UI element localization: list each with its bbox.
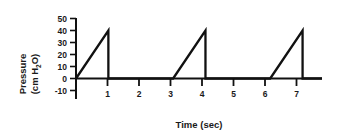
y-tick-label-minus10: -10 — [55, 86, 68, 96]
y-axis-label-line1: Pressure — [17, 54, 28, 95]
pressure-waveform-series — [76, 31, 322, 79]
y-tick-label-20: 20 — [58, 50, 68, 60]
x-tick-labels: 1 2 3 4 5 6 7 — [105, 89, 299, 99]
y-tick-label-50: 50 — [58, 14, 68, 24]
y-tick-labels: 50 40 30 20 10 0 -10 — [55, 14, 68, 96]
x-tick-label-5: 5 — [231, 89, 236, 99]
y-tick-label-0: 0 — [62, 74, 67, 84]
x-tick-label-4: 4 — [200, 89, 205, 99]
y-tick-label-10: 10 — [58, 62, 68, 72]
y-axis-label-line2: (cm H2O) — [29, 54, 42, 95]
y-axis-label-unit-prefix: (cm H — [29, 68, 40, 95]
x-tick-label-2: 2 — [137, 89, 142, 99]
pressure-time-chart: Pressure (cm H2O) 50 40 30 20 10 0 -10 — [0, 0, 338, 140]
y-axis-label-unit-suffix: O) — [29, 54, 40, 65]
x-tick-label-7: 7 — [294, 89, 299, 99]
chart-plot-area: Pressure (cm H2O) 50 40 30 20 10 0 -10 — [0, 0, 338, 140]
x-tick-label-1: 1 — [105, 89, 110, 99]
y-axis-label: Pressure (cm H2O) — [17, 54, 42, 95]
x-axis-label: Time (sec) — [176, 119, 223, 130]
y-tick-label-30: 30 — [58, 38, 68, 48]
y-tick-label-40: 40 — [58, 26, 68, 36]
x-tick-label-3: 3 — [168, 89, 173, 99]
x-tick-label-6: 6 — [263, 89, 268, 99]
